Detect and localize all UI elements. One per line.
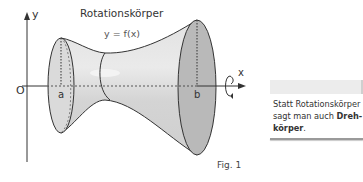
right-end-face — [178, 20, 216, 155]
left-end-face — [48, 38, 74, 133]
side-note: Statt Rotationskörpersagt man auch Dreh-… — [270, 80, 363, 140]
curve-label: y = f(x) — [104, 28, 140, 39]
side-note-text: Statt Rotationskörpersagt man auch Dreh-… — [270, 94, 363, 138]
bound-b-label: b — [194, 89, 200, 100]
side-note-divider — [270, 138, 363, 140]
rotation-body-surface — [61, 20, 197, 155]
note-line-2: sagt man auch — [273, 111, 337, 121]
x-axis-label: x — [238, 67, 244, 78]
origin-label: O — [16, 84, 25, 97]
note-bold-term-2: körper — [273, 123, 303, 133]
figure-caption: Fig. 1 — [217, 160, 241, 170]
rotation-body-figure: y Rotationskörper y = f(x) O a b x Fig. … — [0, 0, 250, 182]
figure-title: Rotationskörper — [80, 7, 163, 19]
side-note-header — [270, 80, 363, 94]
note-bold-term-1: Dreh- — [337, 111, 363, 121]
y-axis-label: y — [32, 8, 39, 21]
note-period: . — [303, 123, 306, 133]
bound-a-label: a — [58, 89, 64, 100]
note-line-1: Statt Rotationskörper — [273, 99, 360, 109]
